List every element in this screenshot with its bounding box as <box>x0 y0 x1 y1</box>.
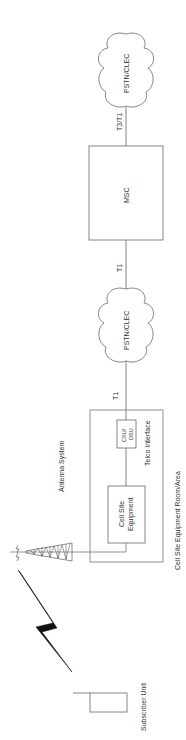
cse-label-line1: Cell Site <box>118 501 125 527</box>
pstn-clec-cloud-mid: PSTN/CLEC <box>98 288 153 362</box>
equipment-room-label: Cell Site Equipment Room/Area <box>174 471 182 570</box>
link-t1-csu-label: T1 <box>112 392 119 400</box>
subscriber-unit-label: Subscriber Unit <box>140 683 147 731</box>
link-t3t1-label: T3/T1 <box>116 113 123 131</box>
antenna-tower-icon <box>10 543 72 561</box>
link-cse-antenna <box>72 543 126 552</box>
cell-site-equipment-box: Cell Site Equipment <box>108 486 145 543</box>
dsu-label: DSU <box>128 428 134 440</box>
antenna-system-label: Antenna System <box>58 440 66 492</box>
msc-box: MSC <box>89 146 163 240</box>
csu-dsu-box: CSU/ DSU <box>117 420 136 448</box>
network-diagram: PSTN/CLEC T3/T1 MSC T1 PSTN/CLEC T1 CSU/… <box>0 0 186 740</box>
pstn-top-label: PSTN/CLEC <box>123 54 130 93</box>
pstn-clec-cloud-top: PSTN/CLEC <box>98 33 153 107</box>
msc-label: MSC <box>123 187 130 203</box>
link-t1-msc-label: T1 <box>116 264 123 272</box>
csu-label: CSU/ <box>121 428 127 442</box>
subscriber-unit-box <box>90 693 127 712</box>
wireless-link-bolt-icon <box>18 570 72 672</box>
telco-interface-label: Telco Interface <box>144 420 151 466</box>
pstn-mid-label: PSTN/CLEC <box>123 311 130 350</box>
cse-label-line2: Equipment <box>127 497 135 531</box>
